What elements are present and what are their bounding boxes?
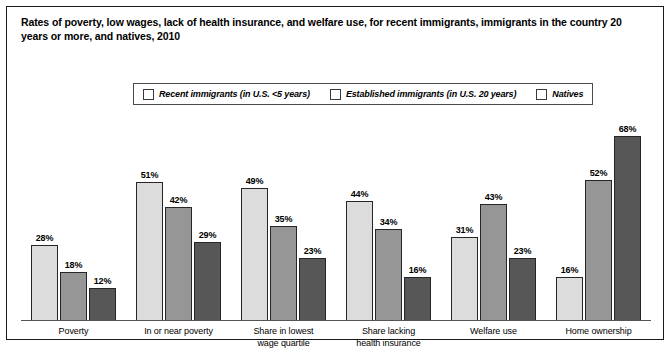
bar[interactable] <box>60 272 87 321</box>
bar-value-label: 42% <box>170 195 187 205</box>
bar[interactable] <box>89 288 116 321</box>
bar-column: 18% <box>60 117 87 321</box>
bar[interactable] <box>299 258 326 321</box>
bar[interactable] <box>194 242 221 321</box>
bar-value-label: 34% <box>380 217 397 227</box>
bar[interactable] <box>136 182 163 321</box>
chart-legend: Recent immigrants (in U.S. <5 years) Est… <box>133 83 593 105</box>
bar-value-label: 31% <box>456 225 473 235</box>
bar-group: 31%43%23% <box>451 117 536 321</box>
bar-value-label: 52% <box>590 168 607 178</box>
bar[interactable] <box>509 258 536 321</box>
bar[interactable] <box>241 188 268 321</box>
bar-column: 23% <box>509 117 536 321</box>
bar-column: 42% <box>165 117 192 321</box>
legend-item-natives[interactable]: Natives <box>536 89 583 100</box>
bar-column: 35% <box>270 117 297 321</box>
x-axis-baseline <box>21 320 651 321</box>
bar-value-label: 16% <box>409 265 426 275</box>
bar[interactable] <box>346 201 373 321</box>
legend-swatch-icon-natives <box>536 89 547 100</box>
chart-figure: Rates of poverty, low wages, lack of hea… <box>6 6 664 340</box>
bar-column: 43% <box>480 117 507 321</box>
bar[interactable] <box>404 277 431 321</box>
bar-column: 12% <box>89 117 116 321</box>
bar-group: 44%34%16% <box>346 117 431 321</box>
bar[interactable] <box>556 277 583 321</box>
bar[interactable] <box>480 204 507 321</box>
x-axis-category-label: Share in lowest wage quartile <box>231 326 336 349</box>
bar-column: 23% <box>299 117 326 321</box>
bar-value-label: 23% <box>514 246 531 256</box>
legend-swatch-icon-recent <box>143 89 154 100</box>
x-axis-category-label: Share lacking health insurance <box>336 326 441 349</box>
chart-title: Rates of poverty, low wages, lack of hea… <box>21 15 645 43</box>
bar[interactable] <box>270 226 297 321</box>
x-axis-category-label: Home ownership <box>546 326 651 338</box>
x-axis-category-label: In or near poverty <box>126 326 231 338</box>
legend-item-recent-immigrants[interactable]: Recent immigrants (in U.S. <5 years) <box>143 89 310 100</box>
bar-group: 51%42%29% <box>136 117 221 321</box>
bar-column: 44% <box>346 117 373 321</box>
bar[interactable] <box>451 237 478 321</box>
legend-label-recent: Recent immigrants (in U.S. <5 years) <box>159 89 310 99</box>
bar-column: 16% <box>556 117 583 321</box>
bar-value-label: 51% <box>141 170 158 180</box>
bar-value-label: 43% <box>485 192 502 202</box>
bar[interactable] <box>585 180 612 321</box>
bar-value-label: 49% <box>246 176 263 186</box>
bar-value-label: 23% <box>304 246 321 256</box>
bar-value-label: 29% <box>199 230 216 240</box>
bar-column: 28% <box>31 117 58 321</box>
bar[interactable] <box>614 136 641 321</box>
bar-column: 16% <box>404 117 431 321</box>
bar-value-label: 68% <box>619 124 636 134</box>
bar-column: 49% <box>241 117 268 321</box>
bar-column: 29% <box>194 117 221 321</box>
bar-group: 28%18%12% <box>31 117 116 321</box>
bar-group: 16%52%68% <box>556 117 641 321</box>
legend-swatch-icon-established <box>330 89 341 100</box>
bar[interactable] <box>31 245 58 321</box>
bar-value-label: 44% <box>351 189 368 199</box>
bar-value-label: 28% <box>36 233 53 243</box>
bar-value-label: 16% <box>561 265 578 275</box>
bar-column: 31% <box>451 117 478 321</box>
bar-column: 52% <box>585 117 612 321</box>
bar-column: 51% <box>136 117 163 321</box>
bar[interactable] <box>375 229 402 321</box>
bar-value-label: 35% <box>275 214 292 224</box>
bar-value-label: 12% <box>94 276 111 286</box>
legend-item-established-immigrants[interactable]: Established immigrants (in U.S. 20 years… <box>330 89 516 100</box>
bar-column: 34% <box>375 117 402 321</box>
x-axis-category-label: Poverty <box>21 326 126 338</box>
bar-group: 49%35%23% <box>241 117 326 321</box>
legend-label-natives: Natives <box>552 89 583 99</box>
x-axis-category-label: Welfare use <box>441 326 546 338</box>
bar-value-label: 18% <box>65 260 82 270</box>
legend-label-established: Established immigrants (in U.S. 20 years… <box>346 89 516 99</box>
plot-area: 28%18%12%51%42%29%49%35%23%44%34%16%31%4… <box>21 117 651 321</box>
bar[interactable] <box>165 207 192 321</box>
bar-column: 68% <box>614 117 641 321</box>
